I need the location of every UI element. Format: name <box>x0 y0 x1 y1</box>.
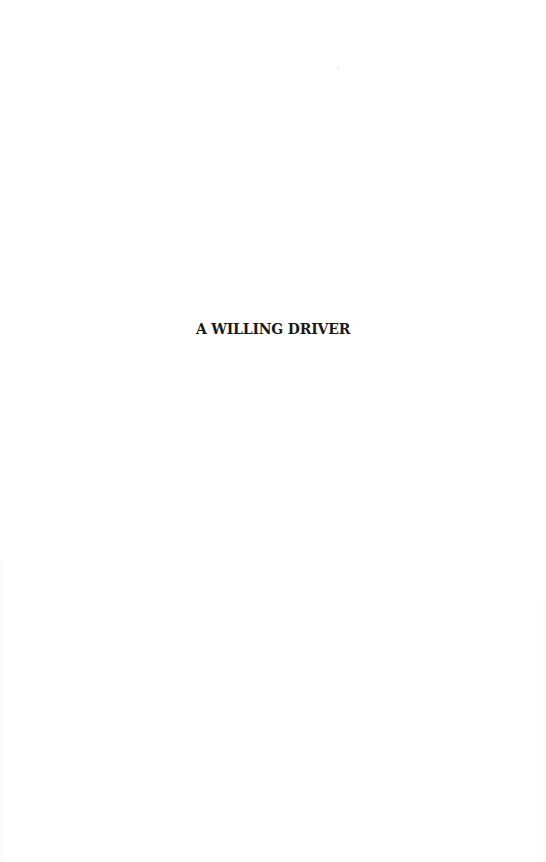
book-page: A WILLING DRIVER <box>0 0 546 862</box>
scan-edge-shadow-left <box>0 560 6 862</box>
scan-speck <box>337 66 340 69</box>
scan-edge-shadow-right <box>542 600 546 862</box>
page-title: A WILLING DRIVER <box>0 319 546 339</box>
